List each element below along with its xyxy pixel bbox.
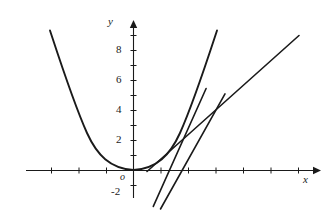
axes-group xyxy=(26,20,321,198)
y-tick-label-6: 6 xyxy=(116,74,122,85)
y-tick-label-minus-2: -2 xyxy=(111,186,120,197)
y-axis-arrowhead xyxy=(130,20,137,28)
y-tick-label-4: 4 xyxy=(116,104,122,115)
x-axis-label: x xyxy=(303,174,308,185)
origin-label: o xyxy=(120,172,125,182)
y-tick-label-2: 2 xyxy=(116,134,122,145)
tangent-lines-group xyxy=(147,36,299,210)
plot-canvas xyxy=(0,0,327,224)
y-axis-label: y xyxy=(108,16,113,27)
x-axis-arrowhead xyxy=(313,167,321,174)
y-tick-label-8: 8 xyxy=(116,44,122,55)
secant-line-1 xyxy=(153,89,206,207)
plot-figure: y x o 8 6 4 2 -2 xyxy=(0,0,327,224)
